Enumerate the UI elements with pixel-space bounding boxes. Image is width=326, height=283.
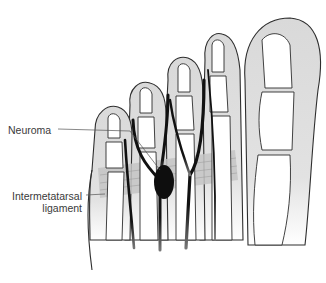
neuroma-label: Neuroma [8,124,51,136]
ligament-label-line1: Intermetatarsal [12,190,82,202]
foot-illustration [0,0,326,283]
intermetatarsal-ligament-label: Intermetatarsal ligament [12,190,82,214]
neuroma-mass [154,165,174,199]
foot-diagram: Neuroma Intermetatarsal ligament [0,0,326,283]
ligament-label-line2: ligament [12,202,82,214]
